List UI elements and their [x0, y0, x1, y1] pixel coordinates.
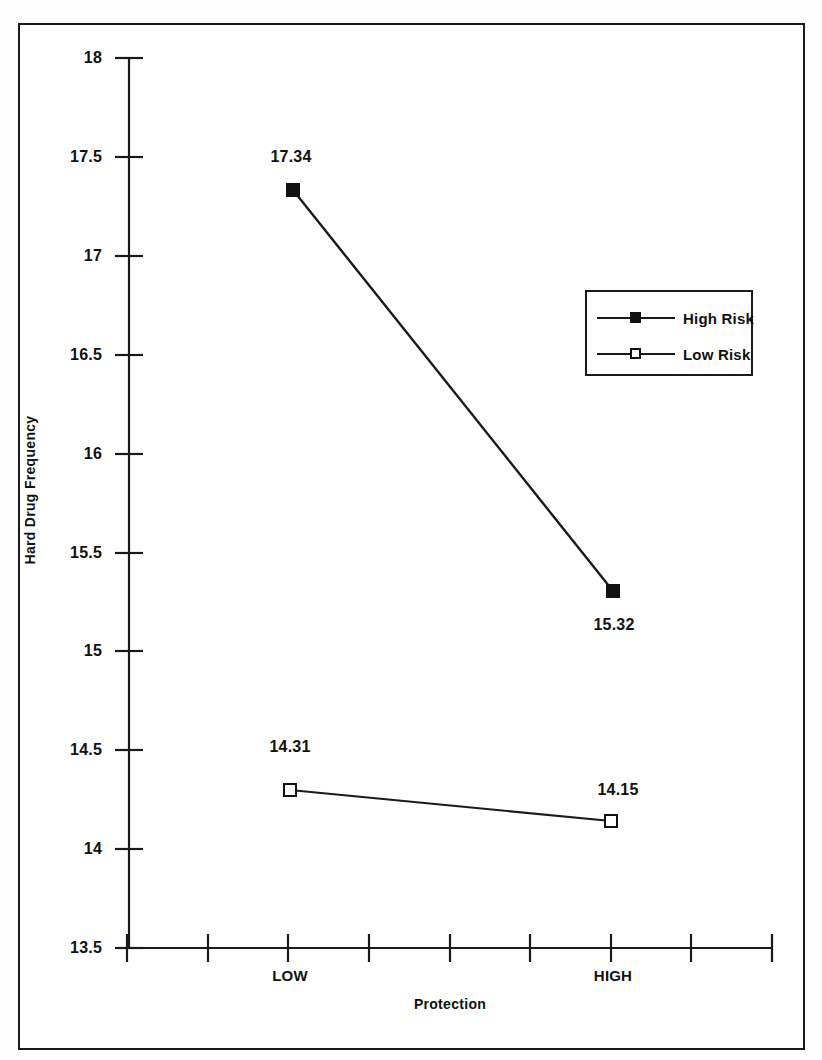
value-label-low-risk-high: 14.15: [597, 781, 638, 799]
y-axis-title: Hard Drug Frequency: [22, 416, 38, 565]
chart-figure: 18 17.5 17 16.5 16 15.5 15 14.5 14 13.5 …: [0, 0, 822, 1060]
legend-label-high-risk: High Risk: [683, 310, 754, 327]
legend-sample-high-risk: [597, 308, 675, 328]
y-tick-label-17-5: 17.5: [6, 148, 102, 166]
y-tick-label-15-5: 15.5: [6, 544, 102, 562]
value-label-high-risk-high: 15.32: [593, 616, 634, 634]
value-label-low-risk-low: 14.31: [269, 738, 310, 756]
data-point-low-risk-high: [605, 815, 617, 827]
data-point-high-risk-low: [287, 184, 299, 196]
filled-square-icon: [630, 312, 641, 323]
series-line-low-risk: [290, 790, 611, 821]
value-label-high-risk-low: 17.34: [270, 148, 311, 166]
y-tick-label-16-5: 16.5: [6, 346, 102, 364]
data-point-high-risk-high: [607, 585, 619, 597]
legend-sample-low-risk: [597, 344, 675, 364]
legend-entry-low-risk: Low Risk: [587, 342, 751, 366]
legend-entry-high-risk: High Risk: [587, 306, 751, 330]
data-point-low-risk-low: [284, 784, 296, 796]
x-axis-title: Protection: [414, 996, 486, 1012]
y-tick-label-14-5: 14.5: [6, 741, 102, 759]
y-tick-label-18: 18: [6, 49, 102, 67]
series-line-high-risk: [293, 190, 613, 591]
y-tick-label-16: 16: [6, 445, 102, 463]
y-tick-label-17: 17: [6, 247, 102, 265]
y-tick-label-13-5: 13.5: [6, 939, 102, 957]
x-tick-label-high: HIGH: [594, 967, 632, 984]
plot-area: [0, 0, 822, 1060]
open-square-icon: [630, 348, 641, 359]
y-tick-label-15: 15: [6, 642, 102, 660]
y-tick-label-14: 14: [6, 840, 102, 858]
legend-label-low-risk: Low Risk: [683, 346, 750, 363]
legend: High Risk Low Risk: [585, 290, 753, 376]
x-tick-label-low: LOW: [272, 967, 308, 984]
